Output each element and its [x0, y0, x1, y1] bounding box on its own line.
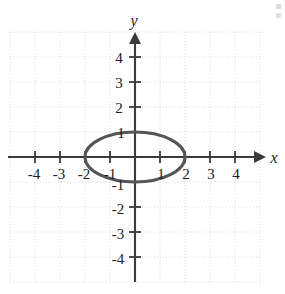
x-tick-label: 3: [207, 166, 215, 182]
y-tick-label: -1: [112, 177, 125, 193]
y-tick-label: -2: [112, 201, 125, 217]
x-tick-label: 1: [157, 166, 165, 182]
scan-edge-artifact: [276, 13, 281, 18]
x-tick-label: -4: [28, 166, 41, 182]
y-axis-label: y: [128, 12, 138, 30]
coordinate-plane-svg: -4 -3 -2 -1 1 2 3 4 4 3 2 1 -1 -2 -3 -4 …: [0, 0, 285, 294]
scan-edge-artifact: [276, 4, 281, 9]
x-tick-label: -2: [78, 166, 91, 182]
x-axis-label: x: [269, 149, 277, 166]
y-tick-label: -4: [112, 251, 125, 267]
y-tick-label: 1: [117, 125, 125, 141]
x-tick-label: -3: [53, 166, 66, 182]
ellipse-graph-figure: -4 -3 -2 -1 1 2 3 4 4 3 2 1 -1 -2 -3 -4 …: [0, 0, 285, 294]
x-tick-label: 2: [182, 166, 190, 182]
y-tick-label: -3: [112, 226, 125, 242]
y-tick-label: 2: [115, 100, 123, 116]
y-tick-label: 4: [115, 50, 123, 66]
x-tick-label: 4: [232, 166, 240, 182]
y-tick-label: 3: [115, 75, 123, 91]
figure-background: [0, 0, 285, 294]
